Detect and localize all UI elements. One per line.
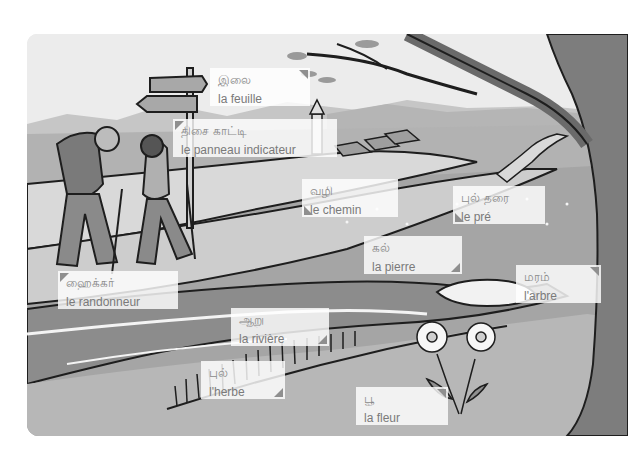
label-flower[interactable]: பூ la fleur	[356, 387, 448, 425]
corner-marker-icon	[304, 206, 313, 215]
label-french: le chemin	[310, 200, 390, 220]
corner-marker-icon	[318, 335, 327, 344]
label-french: la rivière	[239, 329, 321, 349]
label-tamil: வழி	[310, 182, 390, 200]
label-stone[interactable]: கல் la pierre	[364, 236, 462, 274]
label-french: la fleur	[364, 408, 440, 428]
label-grass[interactable]: புல் l'herbe	[201, 361, 285, 399]
corner-marker-icon	[455, 213, 464, 222]
label-french: la feuille	[218, 89, 302, 109]
label-french: le panneau indicateur	[181, 140, 329, 160]
label-tamil: புல்	[209, 364, 277, 382]
label-hiker[interactable]: ஹைக்கர் le randonneur	[58, 271, 178, 309]
label-french: l'herbe	[209, 382, 277, 402]
corner-marker-icon	[274, 388, 283, 397]
label-french: le randonneur	[66, 292, 170, 312]
scene-artwork	[27, 34, 628, 436]
corner-marker-icon	[590, 267, 599, 276]
label-tree[interactable]: மரம் l'arbre	[516, 265, 601, 303]
corner-marker-icon	[60, 273, 69, 282]
label-leaf[interactable]: இலை la feuille	[210, 68, 310, 106]
label-tamil: இலை	[218, 71, 302, 89]
label-tamil: ஹைக்கர்	[66, 274, 170, 292]
label-tamil: கல்	[372, 239, 454, 257]
landscape-illustration: இலை la feuille திசை காட்டி le panneau in…	[27, 34, 628, 436]
label-tamil: ஆறு	[239, 311, 321, 329]
label-tamil: மரம்	[524, 268, 593, 286]
label-river[interactable]: ஆறு la rivière	[231, 308, 329, 346]
corner-marker-icon	[299, 70, 308, 79]
label-french: le pré	[461, 207, 537, 227]
label-path[interactable]: வழி le chemin	[302, 179, 398, 217]
corner-marker-icon	[451, 263, 460, 272]
corner-marker-icon	[437, 389, 446, 398]
label-tamil: பூ	[364, 390, 440, 408]
label-tamil: புல் தரை	[461, 189, 537, 207]
label-tamil: திசை காட்டி	[181, 122, 329, 140]
label-french: l'arbre	[524, 286, 593, 306]
corner-marker-icon	[175, 121, 184, 130]
label-meadow[interactable]: புல் தரை le pré	[453, 186, 545, 224]
label-signpost[interactable]: திசை காட்டி le panneau indicateur	[173, 119, 337, 157]
label-french: la pierre	[372, 257, 454, 277]
